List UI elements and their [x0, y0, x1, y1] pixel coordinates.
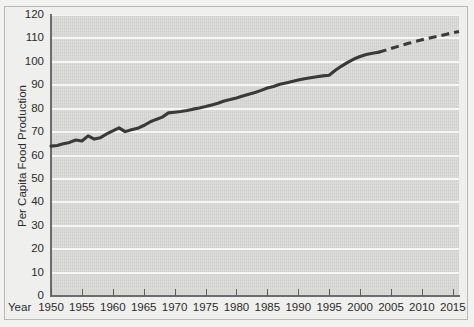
- x-tick-mark: [422, 289, 423, 296]
- data-series-layer: [0, 0, 474, 327]
- x-tick-mark: [113, 289, 114, 296]
- chart-figure: 0102030405060708090100110120 19501955196…: [0, 0, 474, 327]
- x-tick-mark: [206, 289, 207, 296]
- series-observed-line: [51, 52, 379, 146]
- x-tick-mark: [175, 289, 176, 296]
- x-tick-mark: [144, 289, 145, 296]
- x-tick-mark: [267, 289, 268, 296]
- x-tick-mark: [360, 289, 361, 296]
- x-tick-mark: [391, 289, 392, 296]
- x-tick-mark: [236, 289, 237, 296]
- x-tick-mark: [329, 289, 330, 296]
- x-tick-mark: [453, 289, 454, 296]
- series-projected-line: [379, 31, 459, 52]
- x-tick-mark: [51, 289, 52, 296]
- x-tick-mark: [298, 289, 299, 296]
- x-tick-mark: [82, 289, 83, 296]
